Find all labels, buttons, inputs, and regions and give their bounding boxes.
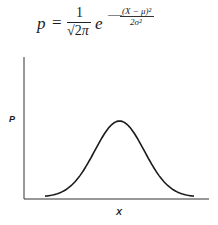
normal-curve <box>45 121 194 196</box>
x-axis-label: X <box>116 207 122 217</box>
y-axis-label: P <box>9 114 15 124</box>
bell-curve-plot <box>0 0 218 225</box>
